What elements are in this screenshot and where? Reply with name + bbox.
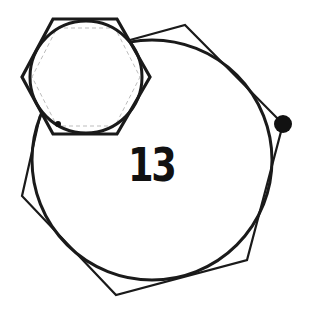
figure-label: 13 [128,138,174,192]
diagram-canvas: 13 [0,0,313,314]
small-dot-marker [55,121,61,127]
large-dot-marker [274,115,292,133]
